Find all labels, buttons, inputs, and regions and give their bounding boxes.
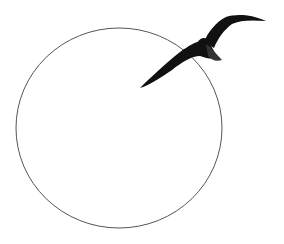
bird-silhouette — [140, 15, 266, 88]
illustration — [0, 0, 284, 244]
circle-outline — [16, 28, 222, 228]
